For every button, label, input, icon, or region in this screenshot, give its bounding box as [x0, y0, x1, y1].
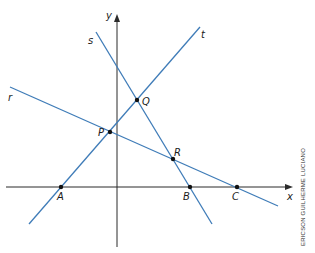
line-t	[29, 27, 200, 224]
line-r-label: r	[8, 92, 13, 103]
coordinate-diagram: y x r s t A B C P Q R ERICSON GUILHERME …	[0, 0, 315, 253]
point-C	[235, 185, 239, 189]
point-B-label: B	[183, 191, 190, 202]
point-A	[59, 185, 63, 189]
point-A-label: A	[56, 191, 64, 202]
y-axis-arrow-icon	[114, 14, 120, 22]
x-axis-arrow-icon	[285, 184, 293, 190]
point-P-label: P	[98, 127, 105, 138]
point-P	[108, 130, 112, 134]
line-s	[96, 32, 212, 224]
line-s-label: s	[88, 35, 93, 46]
point-Q-label: Q	[142, 96, 150, 107]
point-C-label: C	[232, 191, 239, 202]
point-Q	[135, 98, 139, 102]
y-axis-label: y	[105, 10, 113, 21]
x-axis-label: x	[286, 191, 293, 202]
image-credit: ERICSON GUILHERME LUCIANO	[300, 148, 306, 246]
point-B	[188, 185, 192, 189]
points	[59, 98, 239, 189]
axes	[6, 14, 293, 247]
line-t-label: t	[201, 29, 206, 40]
point-R-label: R	[174, 147, 181, 158]
